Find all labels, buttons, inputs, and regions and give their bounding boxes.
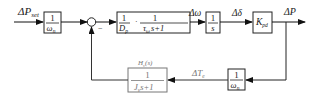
svg-text:1: 1 (234, 70, 239, 80)
delta-signal-label: Δδ (231, 8, 243, 18)
output-signal-label: ΔP (283, 6, 296, 17)
feedback-return-line (92, 27, 129, 80)
feedback-scale-block: 1 ωn (228, 69, 245, 91)
svg-text:1: 1 (153, 13, 158, 23)
gain-block: Kpd (253, 12, 272, 33)
svg-text:1: 1 (122, 13, 127, 23)
svg-text:ΔPset: ΔPset (17, 5, 40, 19)
svg-text:Jvs+1: Jvs+1 (134, 82, 154, 93)
virtual-inertia-title: Hv(s) (137, 59, 153, 68)
minus-sign: − (98, 24, 103, 33)
svg-text:1: 1 (211, 13, 216, 23)
integrator-block: 1 s (206, 12, 220, 33)
virtual-inertia-block: Hv(s) 1 Jvs+1 (128, 59, 167, 93)
summing-junction: − (87, 18, 103, 33)
svg-text:1: 1 (50, 13, 55, 23)
input-signal: ΔPset (14, 5, 43, 22)
block-diagram: ΔPset 1 ωn − 1 1 · Dp τωs+1 Δω 1 s Δδ (0, 0, 318, 101)
plant-block: 1 1 · Dp τωs+1 (117, 12, 190, 34)
torque-signal-label: ΔTe (191, 68, 205, 79)
svg-text:1: 1 (145, 70, 150, 80)
input-scale-block: 1 ωn (44, 12, 61, 34)
omega-signal-label: Δω (188, 8, 202, 18)
svg-text:·: · (135, 17, 138, 26)
